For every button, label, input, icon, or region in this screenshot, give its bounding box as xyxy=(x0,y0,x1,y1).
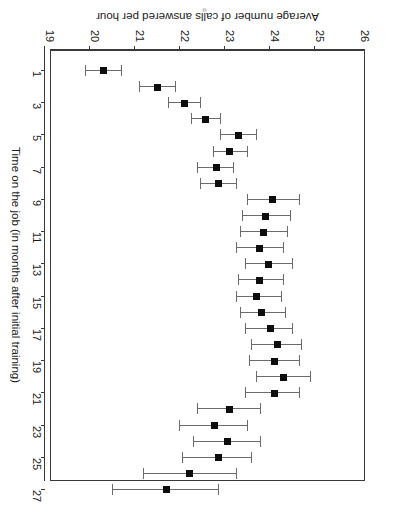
error-bar-cap xyxy=(292,323,293,334)
data-point-marker xyxy=(224,438,231,445)
value-axis-label: 24 xyxy=(269,16,281,56)
error-bar-cap xyxy=(236,242,237,253)
data-point-marker xyxy=(227,148,234,155)
data-point-marker xyxy=(227,406,234,413)
error-bar-cap xyxy=(249,355,250,366)
value-axis-label: 21 xyxy=(134,16,146,56)
error-bar-cap xyxy=(247,146,248,157)
error-bar-cap xyxy=(180,420,181,431)
category-axis-title: Time on the job (in months after initial… xyxy=(9,50,23,481)
error-bar-cap xyxy=(198,162,199,173)
category-axis-line xyxy=(44,50,45,481)
error-bar-cap xyxy=(252,452,253,463)
category-axis-label: 5 xyxy=(32,135,42,165)
error-bar-cap xyxy=(310,371,311,382)
value-axis-label: 20 xyxy=(89,16,101,56)
error-bar-cap xyxy=(261,403,262,414)
data-point-marker xyxy=(256,277,263,284)
error-bar-cap xyxy=(182,452,183,463)
error-bar-cap xyxy=(236,468,237,479)
category-axis-label: 21 xyxy=(32,393,42,423)
error-bar-cap xyxy=(299,355,300,366)
error-bar-cap xyxy=(236,291,237,302)
category-axis-label: 23 xyxy=(32,426,42,456)
rotated-figure-wrapper: Average number of calls answered per hou… xyxy=(0,0,415,531)
data-point-marker xyxy=(155,84,162,91)
category-axis-label: 15 xyxy=(32,297,42,327)
error-bar-cap xyxy=(240,307,241,318)
data-point-marker xyxy=(263,213,270,220)
error-bar-cap xyxy=(121,65,122,76)
data-point-marker xyxy=(272,358,279,365)
data-point-marker xyxy=(101,68,108,75)
data-point-marker xyxy=(265,261,272,268)
error-bar-cap xyxy=(299,194,300,205)
error-bar-cap xyxy=(247,194,248,205)
data-point-marker xyxy=(164,487,171,494)
error-bar-cap xyxy=(285,307,286,318)
error-bar-cap xyxy=(281,291,282,302)
error-bar-cap xyxy=(112,484,113,495)
error-bar-cap xyxy=(85,65,86,76)
category-axis-label: 1 xyxy=(32,71,42,101)
error-bar-cap xyxy=(256,129,257,140)
error-bar-cap xyxy=(245,258,246,269)
value-axis-label: 25 xyxy=(314,16,326,56)
data-point-marker xyxy=(186,470,193,477)
error-bar-cap xyxy=(238,275,239,286)
data-point-marker xyxy=(182,100,189,107)
error-bar-cap xyxy=(288,226,289,237)
error-bar-cap xyxy=(175,81,176,92)
data-point-marker xyxy=(258,309,265,316)
category-axis-label: 25 xyxy=(32,458,42,488)
error-bar-cap xyxy=(290,210,291,221)
value-axis-label: 19 xyxy=(44,16,56,56)
error-bar-cap xyxy=(245,323,246,334)
error-bar-cap xyxy=(240,226,241,237)
data-point-marker xyxy=(202,116,209,123)
error-bar-cap xyxy=(299,387,300,398)
data-point-marker xyxy=(272,390,279,397)
error-bar-cap xyxy=(301,339,302,350)
value-axis-label: 22 xyxy=(179,16,191,56)
data-point-marker xyxy=(269,196,276,203)
category-axis-label: 11 xyxy=(32,232,42,262)
category-axis-label: 19 xyxy=(32,361,42,391)
plot-area xyxy=(50,50,365,481)
data-point-marker xyxy=(213,164,220,171)
category-axis-label: 7 xyxy=(32,168,42,198)
data-point-marker xyxy=(211,422,218,429)
data-point-marker xyxy=(236,132,243,139)
value-axis-label: 23 xyxy=(224,16,236,56)
error-bar-cap xyxy=(213,146,214,157)
error-bar-cap xyxy=(200,178,201,189)
error-bar-cap xyxy=(252,339,253,350)
error-bar-cap xyxy=(168,97,169,108)
error-bar-cap xyxy=(256,371,257,382)
data-point-marker xyxy=(260,229,267,236)
error-bar-cap xyxy=(193,436,194,447)
category-axis-label: 13 xyxy=(32,264,42,294)
error-bar-cap xyxy=(200,97,201,108)
error-bar-cap xyxy=(283,275,284,286)
error-bar-cap xyxy=(243,210,244,221)
data-point-marker xyxy=(267,325,274,332)
error-bar-cap xyxy=(234,162,235,173)
error-bar-cap xyxy=(283,242,284,253)
data-point-marker xyxy=(256,245,263,252)
error-bar-cap xyxy=(218,484,219,495)
error-bar-cap xyxy=(236,178,237,189)
error-bar-cap xyxy=(198,403,199,414)
category-axis-title-text: Time on the job (in months after initial… xyxy=(10,147,22,383)
category-axis-label: 9 xyxy=(32,200,42,230)
error-bar-cap xyxy=(245,387,246,398)
error-bar-cap xyxy=(261,436,262,447)
data-point-marker xyxy=(254,293,261,300)
chart-figure: Average number of calls answered per hou… xyxy=(0,0,415,531)
scan-artifact-speck xyxy=(202,8,207,12)
error-bar-cap xyxy=(247,420,248,431)
data-point-marker xyxy=(281,374,288,381)
error-bar-cap xyxy=(191,113,192,124)
error-bar-cap xyxy=(220,129,221,140)
category-axis-label: 17 xyxy=(32,329,42,359)
